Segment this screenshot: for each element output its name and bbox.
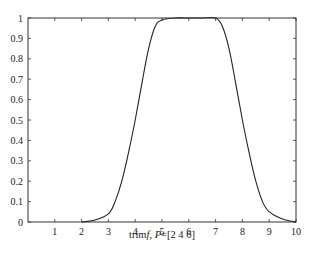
y-tick-label: 1: [18, 13, 23, 24]
y-tick-label: 0.8: [11, 53, 24, 64]
membership-function-chart: 12345678910 00.10.20.30.40.50.60.70.80.9…: [0, 0, 310, 260]
x-tick-label: 7: [213, 226, 218, 237]
x-axis-label: trimf, P=[2 4 6]: [129, 229, 195, 240]
y-tick-label: 0.6: [11, 94, 24, 105]
x-tick-label: 9: [267, 226, 272, 237]
y-tick-label: 0.4: [11, 135, 24, 146]
y-tick-label: 0.5: [11, 115, 24, 126]
y-tick-label: 0.2: [11, 176, 24, 187]
y-tick-label: 0.1: [11, 196, 24, 207]
plot-area: [28, 18, 296, 222]
x-tick-label: 1: [52, 226, 57, 237]
y-tick-label: 0.7: [11, 74, 24, 85]
y-tick-label: 0: [18, 217, 23, 228]
x-tick-label: 10: [291, 226, 301, 237]
y-tick-label: 0.3: [11, 155, 24, 166]
x-tick-label: 8: [240, 226, 245, 237]
y-tick-label: 0.9: [11, 33, 24, 44]
x-tick-label: 2: [79, 226, 84, 237]
x-tick-label: 3: [106, 226, 111, 237]
